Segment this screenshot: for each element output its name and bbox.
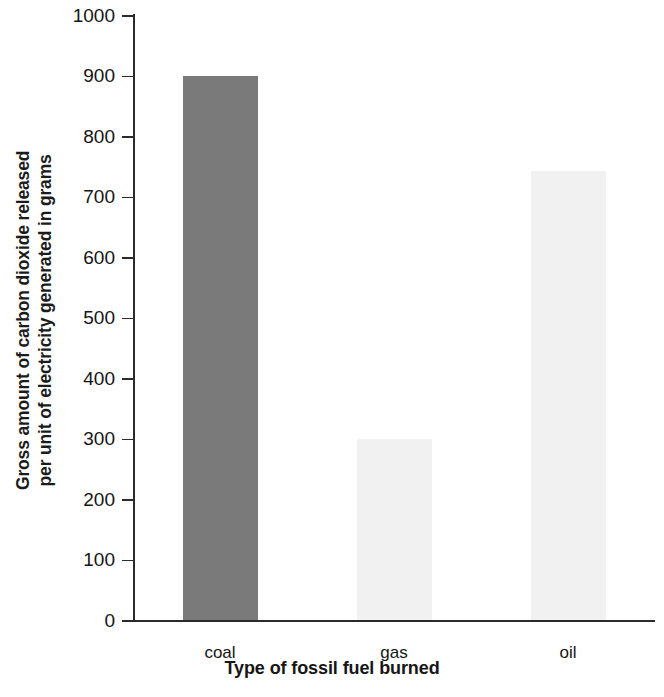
y-axis-tick-label: 400 [83,368,115,390]
y-axis-tick-label: 300 [83,428,115,450]
y-axis-tick-label: 800 [83,126,115,148]
y-axis-tick-label: 100 [83,549,115,571]
x-axis-line [133,620,655,622]
y-axis-tick-label: 200 [83,489,115,511]
y-axis-title: Gross amount of carbon dioxide released … [0,0,70,640]
y-axis-tick: 200 [122,499,133,501]
y-axis-tick-label: 700 [83,186,115,208]
bar-oil[interactable] [531,171,606,620]
y-axis-tick: 300 [122,439,133,441]
y-axis-tick: 800 [122,136,133,138]
y-axis-tick: 0 [122,620,133,622]
y-axis-tick: 500 [122,318,133,320]
bar-coal[interactable] [183,76,258,621]
y-axis-tick-label: 0 [104,610,115,632]
y-axis-tick: 1000 [122,15,133,17]
plot-area: 01002003004005006007008009001000coalgaso… [133,15,655,620]
y-axis-tick-label: 900 [83,65,115,87]
x-axis-title: Type of fossil fuel burned [0,658,664,679]
y-axis-tick-label: 500 [83,307,115,329]
y-axis-title-line-2: per unit of electricity generated in gra… [35,150,57,489]
y-axis-tick: 700 [122,197,133,199]
y-axis-tick: 400 [122,378,133,380]
y-axis-tick: 100 [122,560,133,562]
bar-chart: Gross amount of carbon dioxide released … [0,0,664,697]
y-axis-tick-label: 600 [83,247,115,269]
y-axis-title-line-1: Gross amount of carbon dioxide released [13,150,35,489]
y-axis-tick: 600 [122,257,133,259]
y-axis-tick-label: 1000 [73,5,115,27]
y-axis-tick: 900 [122,76,133,78]
bar-gas[interactable] [357,439,432,621]
